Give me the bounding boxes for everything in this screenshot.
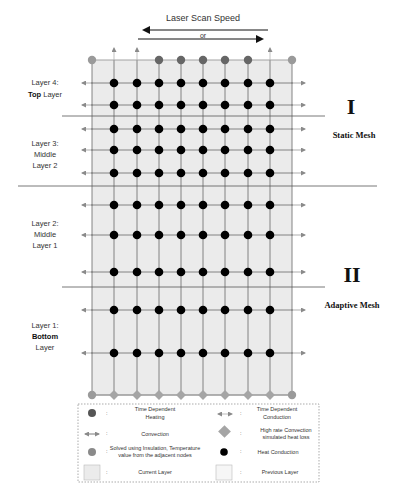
heat-conduction-node <box>199 125 208 134</box>
heat-conduction-node <box>177 125 186 134</box>
layer-2-line3: Layer 1 <box>32 241 57 250</box>
heat-conduction-node <box>244 231 253 240</box>
heat-conduction-node <box>133 268 142 277</box>
previous-layer-box-icon <box>216 465 232 480</box>
heat-conduction-node <box>155 349 164 358</box>
heat-conduction-node <box>266 306 275 315</box>
legend-insulated-line2: value from the adjacent nodes <box>118 452 192 458</box>
edge-tick <box>91 309 93 311</box>
heat-conduction-node <box>177 349 186 358</box>
heating-node <box>244 56 252 64</box>
layer-4-subtitle: Top Layer <box>28 90 63 99</box>
heat-conduction-node <box>221 125 230 134</box>
legend-conduction-line1: Time Dependent <box>257 406 298 412</box>
heat-conduction-node <box>199 101 208 110</box>
edge-tick <box>291 309 293 311</box>
heat-conduction-node <box>221 349 230 358</box>
heat-conduction-node <box>133 101 142 110</box>
heat-conduction-node <box>177 268 186 277</box>
heat-conduction-node <box>244 201 253 210</box>
legend-diamond-line1: High rate Convection <box>260 427 311 433</box>
heat-conduction-node <box>110 125 119 134</box>
layer-label-1: Layer 1: Bottom Layer <box>31 321 58 352</box>
heat-conduction-node <box>199 169 208 178</box>
heat-conduction-node <box>199 79 208 88</box>
heat-conduction-node <box>266 349 275 358</box>
edge-tick <box>291 128 293 130</box>
insulated-dot-icon <box>88 448 96 456</box>
edge-tick <box>91 172 93 174</box>
heat-conduction-node <box>244 268 253 277</box>
heat-conduction-node <box>177 201 186 210</box>
heat-conduction-node <box>221 201 230 210</box>
heat-conduction-node <box>155 306 164 315</box>
heating-node <box>199 56 207 64</box>
layer-3-line3: Layer 2 <box>32 161 57 170</box>
edge-tick <box>291 271 293 273</box>
mesh-diagram: Laser Scan Speed or Layer 4: Top Layer L… <box>0 0 403 500</box>
heat-conduction-node <box>133 349 142 358</box>
heat-conduction-node <box>177 101 186 110</box>
heat-conduction-node <box>110 201 119 210</box>
edge-tick <box>291 204 293 206</box>
heat-conduction-node <box>177 79 186 88</box>
heat-conduction-node <box>110 231 119 240</box>
layer-label-2: Layer 2: Middle Layer 1 <box>31 219 58 250</box>
heat-conduction-node <box>177 231 186 240</box>
region-ii-numeral: II <box>343 262 360 287</box>
heat-conduction-node <box>266 146 275 155</box>
heating-node <box>221 56 229 64</box>
legend-diamond-line2: simulated heat loss <box>262 434 309 440</box>
edge-tick <box>91 149 93 151</box>
heat-conduction-node <box>244 349 253 358</box>
laser-scan-speed-title: Laser Scan Speed <box>166 13 240 23</box>
layer-1-line3: Layer <box>36 343 55 352</box>
legend-insulated-line1: Solved using Insulation, Temperature <box>110 445 200 451</box>
insulated-node <box>88 391 96 399</box>
insulated-node <box>288 391 296 399</box>
heat-conduction-node <box>155 79 164 88</box>
heating-node <box>177 56 185 64</box>
heat-conduction-node <box>199 146 208 155</box>
region-i-numeral: I <box>347 94 356 119</box>
legend-heating-line2: Heating <box>146 414 165 420</box>
heat-conduction-node <box>177 169 186 178</box>
layer-2-line2: Middle <box>34 230 56 239</box>
edge-tick <box>291 82 293 84</box>
heat-conduction-node <box>266 125 275 134</box>
heat-conduction-node <box>133 79 142 88</box>
heat-conduction-node <box>266 169 275 178</box>
heat-conduction-node <box>110 101 119 110</box>
edge-tick <box>91 204 93 206</box>
legend-previous-layer: Previous Layer <box>262 469 299 475</box>
legend-current-layer: Current Layer <box>138 469 172 475</box>
edge-tick <box>91 271 93 273</box>
heat-conduction-node <box>199 201 208 210</box>
edge-tick <box>91 128 93 130</box>
edge-tick <box>291 352 293 354</box>
heat-conduction-node <box>244 101 253 110</box>
heat-conduction-node <box>266 101 275 110</box>
heat-conduction-node <box>155 101 164 110</box>
current-layer-box-icon <box>84 465 100 480</box>
heating-dot-icon <box>88 409 96 417</box>
heat-conduction-node <box>133 306 142 315</box>
insulated-node <box>288 56 296 64</box>
heat-conduction-node <box>133 231 142 240</box>
heat-conduction-node <box>155 231 164 240</box>
legend-heating-line1: Time Dependent <box>135 406 176 412</box>
edge-tick <box>291 149 293 151</box>
heat-conduction-node <box>221 101 230 110</box>
heat-conduction-node <box>221 169 230 178</box>
heat-conduction-node <box>110 146 119 155</box>
heat-conduction-node <box>244 146 253 155</box>
layer-3-line2: Middle <box>34 150 56 159</box>
current-layer-region <box>92 60 292 395</box>
heat-conduction-node <box>155 169 164 178</box>
heat-conduction-node <box>221 231 230 240</box>
heat-conduction-node <box>266 201 275 210</box>
heat-conduction-node <box>110 349 119 358</box>
heat-conduction-node <box>244 169 253 178</box>
edge-tick <box>91 82 93 84</box>
legend-heat-conduction: Heat Conduction <box>258 449 299 455</box>
